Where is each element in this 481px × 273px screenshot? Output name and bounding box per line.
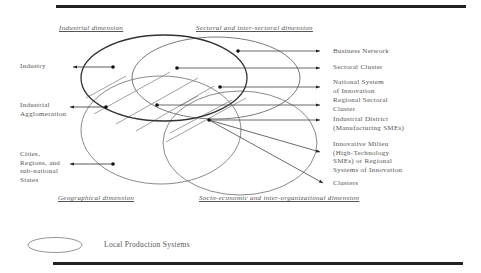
label-cities-regions: Cities, Regions, and sub-national States [20, 150, 60, 184]
venn-diagram [0, 0, 481, 273]
label-regional-sectoral-cluster: Regional Sectoral Cluster [333, 96, 388, 113]
label-national-system-of-innovation: National System of Innovation [333, 78, 384, 95]
label-sectoral-cluster: Sectoral Cluster [333, 63, 383, 72]
hatching-lines [86, 72, 246, 142]
left-arrows [70, 67, 113, 164]
geographical-ellipse [81, 76, 241, 184]
anchor-dots [104, 49, 240, 166]
socio-economic-ellipse [163, 91, 317, 195]
label-industrial-agglomeration: Industrial Agglomeration [20, 101, 66, 118]
legend-ellipse-icon [28, 238, 82, 253]
legend-label: Local Production Systems [104, 240, 190, 249]
label-innovative-milieu: Innovative Milieu (High-Technology SMEs)… [333, 140, 402, 174]
label-clusters: Clusters [333, 179, 358, 188]
label-industry: Industry [20, 62, 46, 71]
label-business-network: Business Network [333, 47, 389, 56]
label-industrial-district: Industrial District (Manufacturing SMEs) [333, 115, 404, 132]
